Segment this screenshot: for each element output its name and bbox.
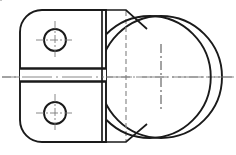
horizontal-slot — [20, 69, 106, 82]
slot-fill — [20, 69, 106, 82]
engineering-drawing-svg — [0, 0, 236, 155]
technical-drawing-canvas — [0, 0, 236, 155]
